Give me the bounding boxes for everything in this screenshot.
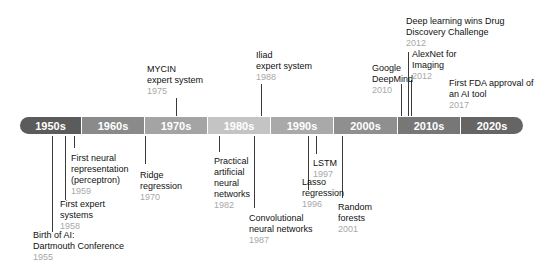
event-title: Random — [338, 202, 372, 213]
event-year: 2017 — [449, 100, 534, 111]
event-title: regression — [302, 188, 344, 199]
event-fda-approval: First FDA approval of an AI tool 2017 — [449, 78, 534, 111]
event-title: Practical — [214, 156, 250, 167]
event-year: 1988 — [256, 72, 312, 83]
decade-label: 1950s — [35, 120, 66, 132]
event-title: Discovery Challenge — [406, 27, 505, 38]
event-title: representation — [71, 164, 129, 175]
event-year: 1982 — [214, 200, 250, 211]
event-year: 1975 — [147, 86, 203, 97]
event-tick — [65, 136, 66, 200]
event-title: First neural — [71, 153, 129, 164]
event-title: (perceptron) — [71, 175, 129, 186]
decade-label: 1990s — [287, 120, 318, 132]
event-title: Ridge — [140, 170, 182, 181]
event-lstm: LSTM 1997 — [313, 158, 337, 180]
event-perceptron: First neural representation (perceptron)… — [71, 153, 129, 197]
event-mycin: MYCIN expert system 1975 — [147, 64, 203, 97]
event-title: Google — [372, 63, 413, 74]
event-title: Iliad — [256, 50, 312, 61]
event-year: 1958 — [60, 221, 105, 232]
event-year: 1997 — [313, 169, 337, 180]
event-tick — [176, 98, 177, 116]
event-title: expert system — [256, 61, 312, 72]
event-title: neural — [214, 178, 250, 189]
event-tick — [261, 84, 262, 116]
event-deepmind: Google DeepMind 2010 — [372, 63, 413, 96]
event-title: systems — [60, 210, 105, 221]
ai-history-timeline: 1950s 1960s 1970s 1980s 1990s 2000s 2010… — [0, 0, 540, 264]
event-title: AlexNet for — [412, 49, 457, 60]
event-year: 2010 — [372, 85, 413, 96]
event-title: networks — [214, 189, 250, 200]
event-year: 1959 — [71, 186, 129, 197]
event-random-forests: Random forests 2001 — [338, 202, 372, 235]
event-title: MYCIN — [147, 64, 203, 75]
event-first-expert-systems: First expert systems 1958 — [60, 199, 105, 232]
event-title: an AI tool — [449, 89, 534, 100]
decade-segment-1950s: 1950s — [20, 117, 81, 134]
event-dartmouth: Birth of AI: Dartmouth Conference 1955 — [33, 230, 124, 263]
decade-segment-2010s: 2010s — [398, 117, 460, 134]
event-year: 2012 — [406, 38, 505, 49]
event-title: neural networks — [249, 224, 313, 235]
event-drug-discovery: Deep learning wins Drug Discovery Challe… — [406, 16, 505, 49]
decade-segment-1960s: 1960s — [82, 117, 144, 134]
decade-label: 2010s — [414, 120, 445, 132]
event-tick — [145, 136, 146, 164]
decade-segment-1990s: 1990s — [271, 117, 333, 134]
event-tick — [52, 136, 53, 232]
decade-label: 1970s — [161, 120, 192, 132]
event-title: DeepMind — [372, 74, 413, 85]
event-ridge-regression: Ridge regression 1970 — [140, 170, 182, 203]
event-title: Deep learning wins Drug — [406, 16, 505, 27]
decade-label: 2000s — [350, 120, 381, 132]
event-cnn: Convolutional neural networks 1987 — [249, 213, 313, 246]
event-tick — [74, 136, 75, 148]
event-title: Convolutional — [249, 213, 313, 224]
decade-segment-2000s: 2000s — [334, 117, 397, 134]
event-title: Dartmouth Conference — [33, 241, 124, 252]
decade-segment-2020s: 2020s — [461, 117, 523, 134]
event-year: 1970 — [140, 192, 182, 203]
event-year: 1987 — [249, 235, 313, 246]
event-tick — [254, 136, 255, 208]
event-year: 1955 — [33, 252, 124, 263]
event-title: artificial — [214, 167, 250, 178]
event-tick — [219, 136, 220, 152]
event-practical-ann: Practical artificial neural networks 198… — [214, 156, 250, 211]
event-title: expert system — [147, 75, 203, 86]
event-title: Imaging — [412, 60, 457, 71]
decade-label: 1960s — [98, 120, 129, 132]
event-year: 2001 — [338, 224, 372, 235]
decade-label: 2020s — [477, 120, 508, 132]
event-title: regression — [140, 181, 182, 192]
decade-segment-1980s: 1980s — [208, 117, 270, 134]
event-iliad: Iliad expert system 1988 — [256, 50, 312, 83]
decade-label: 1980s — [224, 120, 255, 132]
event-title: First expert — [60, 199, 105, 210]
event-title: LSTM — [313, 158, 337, 169]
decade-segment-1970s: 1970s — [145, 117, 207, 134]
event-tick — [316, 136, 317, 154]
event-title: First FDA approval of — [449, 78, 534, 89]
event-title: forests — [338, 213, 372, 224]
